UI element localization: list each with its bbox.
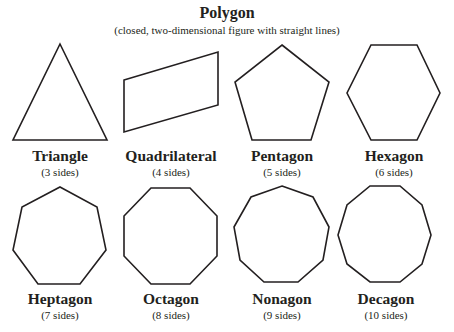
triangle-sides: (3 sides) xyxy=(3,166,117,178)
pentagon-label: Pentagon xyxy=(225,147,339,165)
pentagon-sides: (5 sides) xyxy=(225,166,339,178)
octagon-sides: (8 sides) xyxy=(114,309,228,321)
quadrilateral-sides: (4 sides) xyxy=(114,166,228,178)
octagon-shape xyxy=(124,188,217,284)
nonagon-label: Nonagon xyxy=(225,290,339,308)
triangle-label: Triangle xyxy=(3,147,117,165)
quadrilateral-label: Quadrilateral xyxy=(114,147,228,165)
heptagon-label: Heptagon xyxy=(3,290,117,308)
quadrilateral-shape xyxy=(124,52,218,132)
decagon-sides: (10 sides) xyxy=(329,309,443,321)
nonagon-shape xyxy=(234,186,329,282)
octagon-label: Octagon xyxy=(114,290,228,308)
nonagon-sides: (9 sides) xyxy=(225,309,339,321)
hexagon-sides: (6 sides) xyxy=(337,166,451,178)
decagon-shape xyxy=(338,186,431,282)
hexagon-shape xyxy=(347,45,440,140)
triangle-shape xyxy=(13,44,107,140)
heptagon-shape xyxy=(13,187,106,284)
pentagon-shape xyxy=(235,45,329,140)
hexagon-label: Hexagon xyxy=(337,147,451,165)
heptagon-sides: (7 sides) xyxy=(3,309,117,321)
decagon-label: Decagon xyxy=(329,290,443,308)
